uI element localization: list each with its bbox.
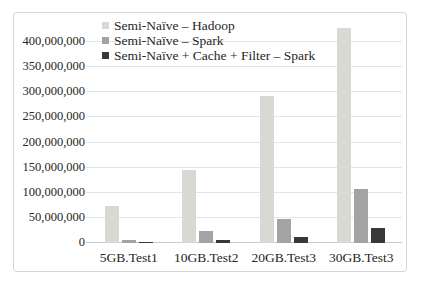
legend-item: Semi-Naïve + Cache + Filter – Spark xyxy=(102,48,315,63)
chart-canvas: 050,000,000100,000,000150,000,000200,000… xyxy=(0,0,425,291)
x-axis-tick-label: 5GB.Test1 xyxy=(90,250,168,266)
legend-item: Semi-Naïve – Spark xyxy=(102,33,315,48)
bar-series-1 xyxy=(260,96,274,243)
bar-series-3 xyxy=(294,237,308,243)
bar-series-3 xyxy=(216,240,230,243)
legend-label: Semi-Naïve + Cache + Filter – Spark xyxy=(114,48,315,63)
x-axis-tick-label: 30GB.Test3 xyxy=(323,250,401,266)
legend-swatch-icon xyxy=(102,52,109,59)
y-axis-tick-label: 0 xyxy=(0,235,85,250)
bar-series-2 xyxy=(277,219,291,243)
legend-label: Semi-Naïve – Hadoop xyxy=(114,18,235,33)
legend-item: Semi-Naïve – Hadoop xyxy=(102,18,315,33)
bar-series-2 xyxy=(354,189,368,243)
legend: Semi-Naïve – HadoopSemi-Naïve – SparkSem… xyxy=(102,18,315,63)
y-axis-tick-label: 300,000,000 xyxy=(0,84,85,99)
bar-series-2 xyxy=(199,231,213,243)
bar-series-1 xyxy=(105,206,119,243)
legend-swatch-icon xyxy=(102,22,109,29)
y-axis-tick-label: 200,000,000 xyxy=(0,135,85,150)
x-axis-tick-label: 20GB.Test3 xyxy=(245,250,323,266)
y-axis-tick-label: 350,000,000 xyxy=(0,59,85,74)
y-axis-tick-label: 250,000,000 xyxy=(0,109,85,124)
bar-series-3 xyxy=(371,228,385,243)
bar-series-1 xyxy=(337,28,351,243)
bar-series-1 xyxy=(182,170,196,243)
y-axis-tick-label: 50,000,000 xyxy=(0,210,85,225)
y-axis-tick-label: 400,000,000 xyxy=(0,34,85,49)
bar-series-3 xyxy=(139,242,153,243)
y-axis-tick-label: 150,000,000 xyxy=(0,160,85,175)
bar-series-2 xyxy=(122,240,136,244)
legend-swatch-icon xyxy=(102,37,109,44)
y-axis-tick-label: 100,000,000 xyxy=(0,185,85,200)
x-axis-tick-label: 10GB.Test2 xyxy=(168,250,246,266)
legend-label: Semi-Naïve – Spark xyxy=(114,33,223,48)
bar-group-30GB.Test3 xyxy=(323,17,401,243)
